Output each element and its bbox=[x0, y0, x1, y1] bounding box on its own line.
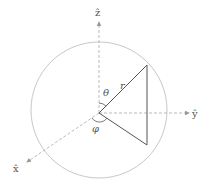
theta-arc bbox=[99, 103, 106, 106]
theta-label: θ bbox=[103, 87, 109, 98]
phi-label: φ bbox=[92, 123, 99, 134]
projection-line bbox=[99, 113, 147, 145]
radius-label: r bbox=[120, 80, 126, 91]
y-axis-label: ŷ bbox=[191, 108, 198, 119]
z-axis-label: ẑ bbox=[95, 7, 100, 18]
spherical-coordinates-diagram: ẑ ŷ x̂ r θ φ bbox=[0, 0, 208, 193]
x-axis-label: x̂ bbox=[13, 163, 19, 174]
phi-arc bbox=[92, 118, 107, 122]
x-axis bbox=[27, 113, 99, 162]
